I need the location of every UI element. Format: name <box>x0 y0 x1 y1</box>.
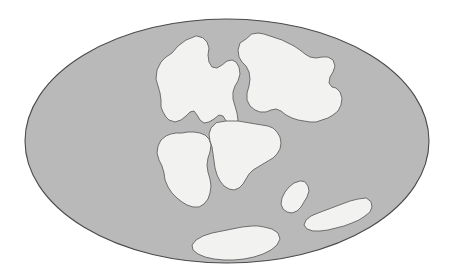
paleogeographic-map-figure: North America (Laurentia)Eurasia (Lauras… <box>0 0 453 276</box>
world-map-svg: North America (Laurentia)Eurasia (Lauras… <box>0 0 453 276</box>
